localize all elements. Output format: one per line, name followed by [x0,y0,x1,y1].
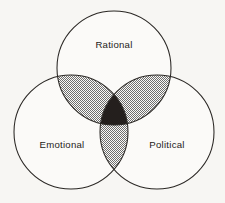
venn-diagram-canvas: Rational Emotional Political [0,0,225,203]
venn-diagram-figure: Rational Emotional Political [0,0,225,203]
label-political: Political [149,139,184,150]
label-rational: Rational [95,39,132,50]
label-emotional: Emotional [40,139,85,150]
